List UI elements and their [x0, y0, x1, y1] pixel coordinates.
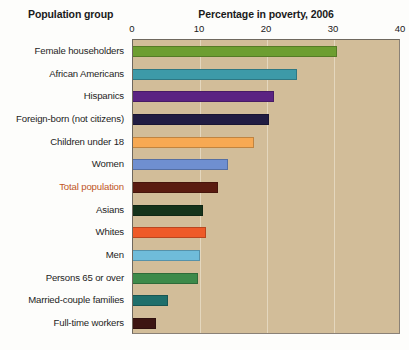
bar-row: [133, 108, 399, 131]
bar: [133, 227, 206, 238]
bar-row: [133, 131, 399, 154]
bar: [133, 137, 254, 148]
x-tick-label: 30: [328, 23, 339, 34]
bar: [133, 273, 198, 284]
bar-series: [133, 40, 399, 333]
category-label: Foreign-born (not citizens): [16, 113, 124, 124]
category-label: Persons 65 or over: [46, 272, 124, 283]
bar-row: [133, 199, 399, 222]
bar: [133, 46, 337, 57]
category-label: Hispanics: [84, 90, 124, 101]
bar: [133, 182, 218, 193]
category-label-row: Persons 65 or over: [0, 266, 128, 289]
bar-row: [133, 267, 399, 290]
category-label-row: Women: [0, 152, 128, 175]
poverty-bar-chart: Population group Percentage in poverty, …: [0, 0, 409, 350]
bar: [133, 159, 228, 170]
category-label-row: Total population: [0, 175, 128, 198]
category-label-row: Full-time workers: [0, 311, 128, 334]
x-tick-label: 0: [129, 23, 134, 34]
category-label-row: Married-couple families: [0, 289, 128, 312]
chart-title: Percentage in poverty, 2006: [132, 8, 400, 20]
x-tick-label: 10: [194, 23, 205, 34]
category-label-row: Asians: [0, 198, 128, 221]
category-axis-labels: Female householdersAfrican AmericansHisp…: [0, 39, 128, 334]
bar-row: [133, 312, 399, 335]
x-tick-label: 20: [261, 23, 272, 34]
bar: [133, 250, 200, 261]
population-group-heading: Population group: [28, 8, 132, 20]
category-label: Women: [92, 158, 124, 169]
category-label: Asians: [96, 204, 124, 215]
bar: [133, 69, 297, 80]
category-label: Full-time workers: [54, 317, 124, 328]
bar-row: [133, 222, 399, 245]
bar: [133, 91, 274, 102]
category-label: Children under 18: [50, 136, 124, 147]
x-tick-label: 40: [395, 23, 406, 34]
bar-row: [133, 176, 399, 199]
x-axis-tick-labels: 010203040: [132, 23, 400, 37]
category-label-row: Female householders: [0, 39, 128, 62]
category-label: Female householders: [35, 45, 124, 56]
bar-row: [133, 40, 399, 63]
bar-row: [133, 85, 399, 108]
bar: [133, 318, 156, 329]
category-label: Married-couple families: [28, 294, 124, 305]
category-label-row: Whites: [0, 221, 128, 244]
bar: [133, 205, 203, 216]
category-label: African Americans: [49, 68, 124, 79]
category-label-row: Men: [0, 243, 128, 266]
bar-row: [133, 63, 399, 86]
bar: [133, 295, 168, 306]
category-label-row: Hispanics: [0, 84, 128, 107]
category-label: Men: [106, 249, 124, 260]
bar: [133, 114, 269, 125]
category-label: Total population: [59, 181, 124, 192]
bar-row: [133, 153, 399, 176]
plot-area: [132, 39, 400, 334]
category-label-row: Children under 18: [0, 130, 128, 153]
category-label-row: Foreign-born (not citizens): [0, 107, 128, 130]
category-label-row: African Americans: [0, 62, 128, 85]
bar-row: [133, 290, 399, 313]
bar-row: [133, 244, 399, 267]
category-label: Whites: [96, 226, 124, 237]
